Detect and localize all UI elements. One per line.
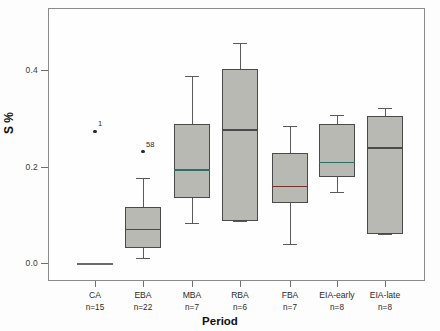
outlier-label: 1 xyxy=(98,119,102,128)
y-axis-tick xyxy=(41,70,48,71)
x-axis-tick xyxy=(290,281,291,287)
whisker-line xyxy=(143,248,144,259)
whisker-cap xyxy=(233,221,247,222)
box-rect xyxy=(272,153,308,203)
whisker-cap xyxy=(233,43,247,44)
x-axis-tick xyxy=(337,281,338,287)
whisker-cap xyxy=(283,126,297,127)
y-axis-tick-label: 0.4 xyxy=(0,65,38,75)
x-axis-title: Period xyxy=(0,315,440,327)
x-axis-sample-count: n=8 xyxy=(350,303,420,312)
median-line xyxy=(125,229,161,231)
whisker-cap xyxy=(283,244,297,245)
whisker-cap xyxy=(330,192,344,193)
median-line xyxy=(272,186,308,188)
median-line xyxy=(367,147,403,149)
whisker-cap xyxy=(136,178,150,179)
box-rect xyxy=(174,124,210,198)
whisker-line xyxy=(385,108,386,116)
box-rect xyxy=(367,116,403,234)
box-rect xyxy=(319,124,355,177)
median-line xyxy=(174,169,210,171)
y-axis-tick xyxy=(41,167,48,168)
boxplot-figure: S % Period 0.00.20.4 CAn=15EBAn=22MBAn=7… xyxy=(0,0,440,331)
whisker-cap xyxy=(378,108,392,109)
x-axis-tick-label: EIA-late xyxy=(350,290,420,300)
whisker-cap xyxy=(136,258,150,259)
median-line xyxy=(222,129,258,131)
x-axis-tick xyxy=(192,281,193,287)
whisker-line xyxy=(290,203,291,244)
y-axis-tick-label: 0.2 xyxy=(0,162,38,172)
outlier-point xyxy=(141,150,144,153)
whisker-cap xyxy=(330,115,344,116)
x-axis-tick xyxy=(385,281,386,287)
whisker-cap xyxy=(185,76,199,77)
whisker-line xyxy=(192,76,193,123)
whisker-line xyxy=(192,198,193,223)
whisker-line xyxy=(143,178,144,207)
whisker-cap xyxy=(185,223,199,224)
outlier-point xyxy=(93,130,96,133)
y-axis-tick-label: 0.0 xyxy=(0,258,38,268)
whisker-line xyxy=(290,126,291,153)
x-axis-tick xyxy=(143,281,144,287)
whisker-line xyxy=(337,177,338,191)
y-axis-title: S % xyxy=(2,112,16,134)
whisker-cap xyxy=(378,234,392,235)
x-axis-tick xyxy=(240,281,241,287)
median-line xyxy=(319,162,355,164)
box-degenerate-line xyxy=(77,263,113,265)
whisker-line xyxy=(240,43,241,69)
box-rect xyxy=(222,69,258,221)
x-axis-tick xyxy=(95,281,96,287)
whisker-line xyxy=(337,115,338,124)
outlier-label: 58 xyxy=(146,140,154,149)
box-rect xyxy=(125,207,161,248)
y-axis-tick xyxy=(41,263,48,264)
